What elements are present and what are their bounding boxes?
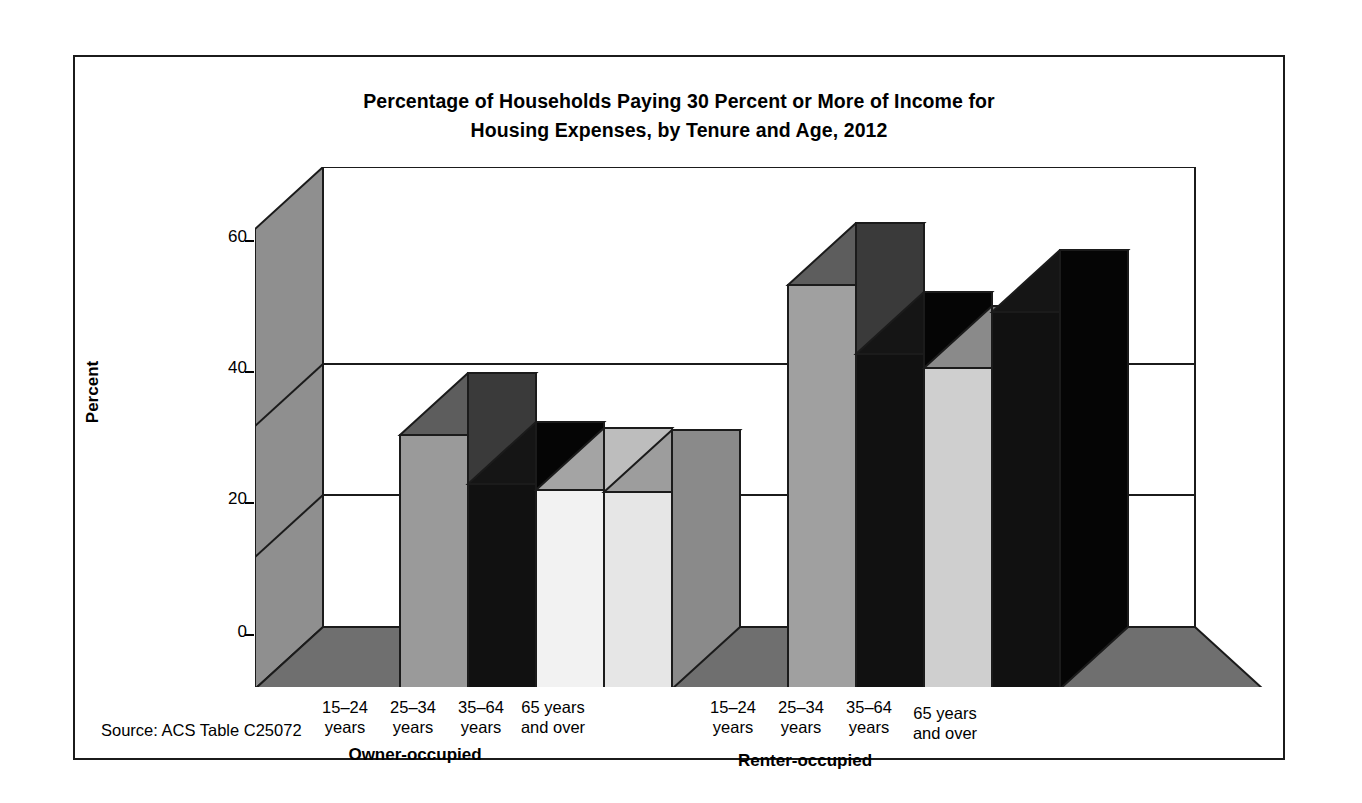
plot-left-wall (255, 167, 323, 687)
chart-title-line-1: Percentage of Households Paying 30 Perce… (75, 87, 1283, 116)
category-label-owner-65-plus: 65 years and over (505, 697, 601, 737)
category-label-line1: 65 years (505, 697, 601, 717)
y-tick-label-40: 40 (187, 358, 247, 378)
bar-renter-65-plus (992, 250, 1128, 687)
category-label-line1: 65 years (897, 703, 993, 723)
source-note: Source: ACS Table C25072 (101, 721, 302, 740)
y-tick-label-20: 20 (187, 489, 247, 509)
category-label-line2: and over (897, 723, 993, 743)
category-label-renter-65-plus: 65 years and over (897, 703, 993, 743)
y-tick-mark-20 (245, 502, 254, 504)
y-axis-title: Percent (83, 312, 103, 472)
y-tick-mark-0 (245, 634, 254, 636)
chart-title: Percentage of Households Paying 30 Perce… (75, 87, 1283, 145)
y-tick-mark-40 (245, 371, 254, 373)
y-tick-mark-60 (245, 240, 254, 242)
y-tick-label-0: 0 (187, 622, 247, 642)
category-label-line2: and over (505, 717, 601, 737)
chart-plot-area-3d (255, 167, 1265, 687)
figure-frame: Percentage of Households Paying 30 Perce… (73, 55, 1285, 760)
group-label-renter-occupied: Renter-occupied (675, 751, 935, 771)
y-axis-tick-labels: 60 40 20 0 (175, 57, 247, 758)
group-label-owner-occupied: Owner-occupied (285, 745, 545, 765)
chart-title-line-2: Housing Expenses, by Tenure and Age, 201… (75, 116, 1283, 145)
y-tick-label-60: 60 (187, 227, 247, 247)
